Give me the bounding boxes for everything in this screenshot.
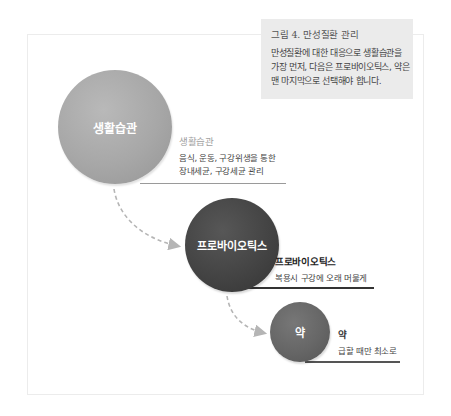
circle-label: 약 — [295, 324, 305, 340]
step-3-label: 약 급할 때만 최소로 — [338, 327, 397, 358]
step-title: 약 — [338, 327, 397, 341]
step-3-underline — [305, 361, 400, 363]
circle-label: 프로바이오틱스 — [197, 237, 267, 253]
step-desc-line: 음식, 운동, 구강위생을 통한 — [179, 152, 276, 165]
step-title: 생활습관 — [179, 134, 276, 148]
step-desc-line: 장내세균, 구강세균 관리 — [179, 165, 276, 178]
caption-line: 만성질환에 대한 대응으로 생활습관을 — [271, 46, 405, 60]
step-circle-probiotics: 프로바이오틱스 — [185, 198, 279, 292]
figure-caption: 그림 4. 만성질환 관리 만성질환에 대한 대응으로 생활습관을 가장 먼저,… — [261, 19, 413, 99]
step-title: 프로바이오틱스 — [275, 254, 367, 268]
caption-line: 가장 먼저, 다음은 프로바이오틱스, 약은 — [271, 60, 405, 74]
step-desc-line: 급할 때만 최소로 — [338, 345, 397, 358]
caption-title: 그림 4. 만성질환 관리 — [271, 27, 405, 41]
circle-label: 생활습관 — [93, 119, 137, 136]
step-desc-line: 복용시 구강에 오래 머물게 — [275, 272, 367, 285]
step-desc: 복용시 구강에 오래 머물게 — [275, 272, 367, 285]
caption-line: 맨 마지막으로 선택해야 합니다. — [271, 74, 405, 88]
step-2-label: 프로바이오틱스 복용시 구강에 오래 머물게 — [275, 254, 367, 285]
step-desc: 급할 때만 최소로 — [338, 345, 397, 358]
step-desc: 음식, 운동, 구강위생을 통한 장내세균, 구강세균 관리 — [179, 152, 276, 178]
caption-body: 만성질환에 대한 대응으로 생활습관을 가장 먼저, 다음은 프로바이오틱스, … — [271, 46, 405, 88]
step-circle-medicine: 약 — [270, 302, 330, 362]
step-1-label: 생활습관 음식, 운동, 구강위생을 통한 장내세균, 구강세균 관리 — [179, 134, 276, 178]
step-circle-lifestyle: 생활습관 — [58, 70, 172, 184]
step-1-underline — [140, 183, 286, 184]
